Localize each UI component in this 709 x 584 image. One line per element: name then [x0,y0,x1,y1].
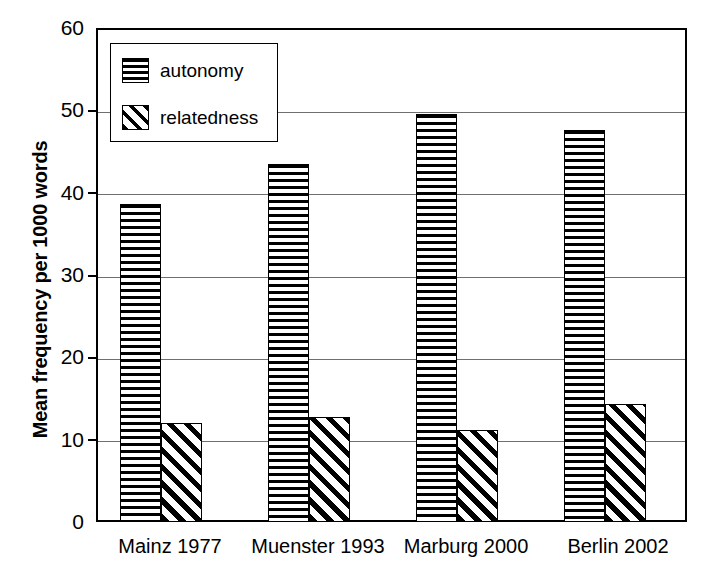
x-tick-label: Berlin 2002 [536,534,700,558]
y-tick-mark [88,357,96,359]
bar-relatedness-berlin-2002[interactable] [605,404,646,522]
y-tick-label: 60 [24,17,84,38]
y-tick-mark [88,110,96,112]
y-tick-label: 30 [24,264,84,285]
bar-autonomy-mainz-1977[interactable] [120,204,161,522]
x-tick-label: Muenster 1993 [236,534,400,558]
y-tick-mark [88,275,96,277]
bar-autonomy-marburg-2000[interactable] [416,114,457,522]
bar-autonomy-berlin-2002[interactable] [564,130,605,522]
legend-item-relatedness[interactable]: relatedness [122,105,258,130]
chart-legend: autonomy relatedness [110,43,278,142]
bar-relatedness-mainz-1977[interactable] [161,423,202,522]
legend-swatch-relatedness-icon [122,105,149,130]
legend-item-autonomy[interactable]: autonomy [122,58,243,83]
bar-autonomy-muenster-1993[interactable] [268,164,309,522]
x-tick-label: Marburg 2000 [384,534,548,558]
y-tick-label: 20 [24,346,84,367]
y-tick-label: 0 [24,511,84,532]
bar-relatedness-muenster-1993[interactable] [309,417,350,522]
bar-chart: Mean frequency per 1000 words 60 50 40 3… [0,0,709,584]
y-tick-mark [88,192,96,194]
x-tick-label: Mainz 1977 [88,534,252,558]
bar-relatedness-marburg-2000[interactable] [457,430,498,522]
x-axis-categories: Mainz 1977 Muenster 1993 Marburg 2000 Be… [96,534,687,568]
y-tick-label: 50 [24,99,84,120]
legend-swatch-autonomy-icon [122,58,149,83]
legend-label: autonomy [160,61,243,81]
y-tick-label: 40 [24,182,84,203]
legend-label: relatedness [160,108,258,128]
y-tick-label: 10 [24,429,84,450]
y-tick-mark [88,439,96,441]
